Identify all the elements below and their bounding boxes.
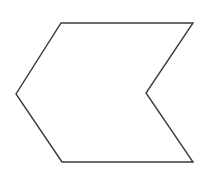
drawing-canvas <box>0 0 211 174</box>
shape-canvas-svg <box>0 0 211 174</box>
